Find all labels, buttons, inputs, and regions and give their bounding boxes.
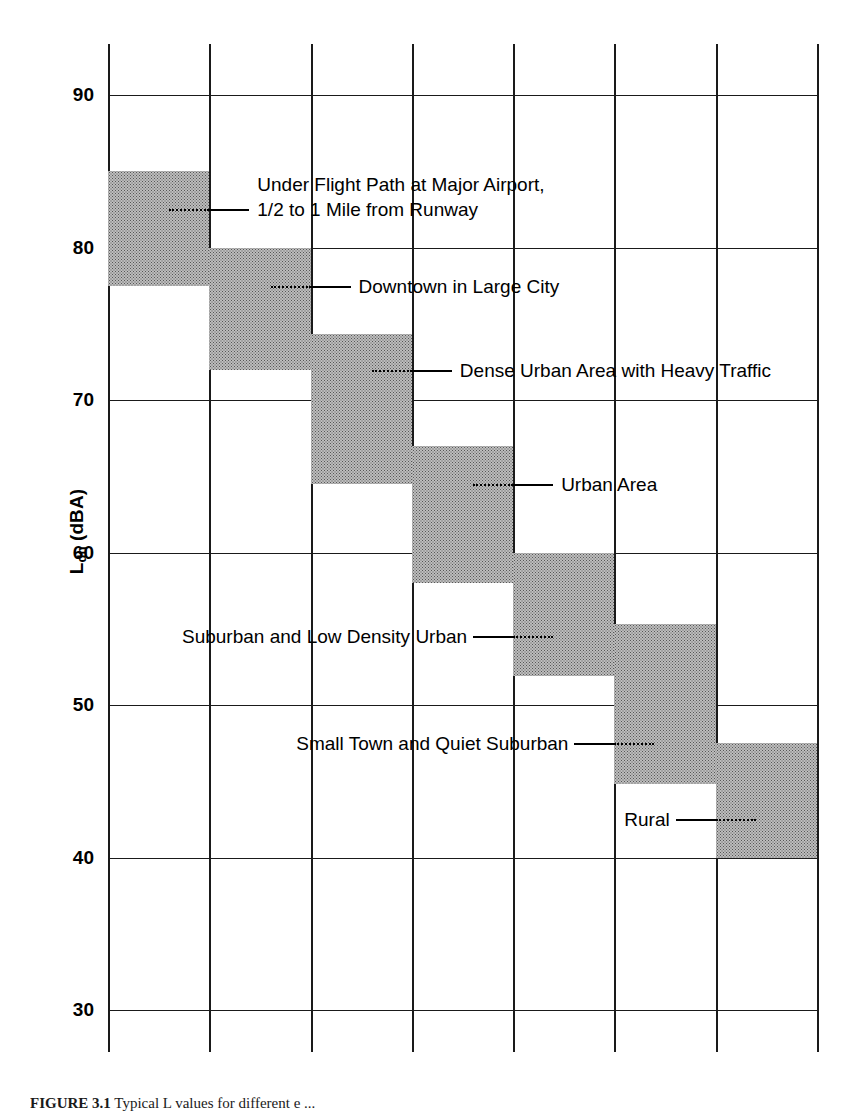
- horizontal-gridline: [108, 95, 817, 96]
- leader-line: [513, 484, 553, 486]
- range-bar: [311, 334, 412, 483]
- bar-label-line: Small Town and Quiet Suburban: [296, 731, 568, 756]
- y-axis-tick-label: 30: [48, 999, 94, 1021]
- bar-label: Suburban and Low Density Urban: [182, 624, 467, 649]
- leader-line: [473, 636, 513, 638]
- y-axis-tick-label: 60: [48, 542, 94, 564]
- bar-label: Under Flight Path at Major Airport,1/2 t…: [257, 172, 544, 222]
- vertical-gridline: [817, 44, 819, 1052]
- vertical-gridline: [716, 44, 718, 1052]
- range-bar: [412, 446, 513, 583]
- bar-label-line: Downtown in Large City: [359, 274, 560, 299]
- bar-label: Dense Urban Area with Heavy Traffic: [460, 358, 771, 383]
- y-axis-tick-label: 50: [48, 694, 94, 716]
- leader-line-stub: [716, 819, 756, 821]
- leader-line: [574, 743, 614, 745]
- vertical-gridline: [614, 44, 616, 1052]
- bar-label: Urban Area: [561, 472, 657, 497]
- leader-line-stub: [372, 370, 412, 372]
- bar-label-line: Urban Area: [561, 472, 657, 497]
- bar-label-line: Suburban and Low Density Urban: [182, 624, 467, 649]
- range-bar: [209, 248, 310, 370]
- bar-label-line: Under Flight Path at Major Airport,: [257, 172, 544, 197]
- horizontal-gridline: [108, 400, 817, 401]
- leader-line: [412, 370, 452, 372]
- y-axis-tick-labels: 90807060504030: [48, 0, 94, 1111]
- y-axis-tick-label: 90: [48, 84, 94, 106]
- range-bar: [513, 553, 614, 677]
- horizontal-gridline: [108, 1010, 817, 1011]
- bar-label-line: Dense Urban Area with Heavy Traffic: [460, 358, 771, 383]
- range-bar: [108, 171, 209, 285]
- leader-line-stub: [271, 286, 311, 288]
- y-axis-tick-label: 80: [48, 237, 94, 259]
- caption-figure-number: FIGURE 3.1: [30, 1095, 111, 1111]
- caption-text: Typical L values for different e ...: [114, 1095, 315, 1111]
- bar-label: Downtown in Large City: [359, 274, 560, 299]
- leader-line: [311, 286, 351, 288]
- plot-area: [108, 95, 817, 1010]
- range-bar: [716, 743, 817, 857]
- y-axis-tick-label: 70: [48, 389, 94, 411]
- bar-label: Small Town and Quiet Suburban: [296, 731, 568, 756]
- bar-label-line: Rural: [624, 807, 669, 832]
- leader-line-stub: [473, 484, 513, 486]
- leader-line-stub: [614, 743, 654, 745]
- figure-caption: FIGURE 3.1 Typical L values for differen…: [30, 1095, 830, 1111]
- y-axis-tick-label: 40: [48, 847, 94, 869]
- leader-line: [209, 209, 249, 211]
- bar-label-line: 1/2 to 1 Mile from Runway: [257, 197, 544, 222]
- range-bar: [614, 624, 715, 784]
- horizontal-gridline: [108, 858, 817, 859]
- vertical-gridline: [209, 44, 211, 1052]
- leader-line-stub: [513, 636, 553, 638]
- figure-root: Ldn (dBA) 90807060504030 FIGURE 3.1 Typi…: [0, 0, 849, 1111]
- bar-label: Rural: [624, 807, 669, 832]
- leader-line: [676, 819, 716, 821]
- leader-line-stub: [169, 209, 209, 211]
